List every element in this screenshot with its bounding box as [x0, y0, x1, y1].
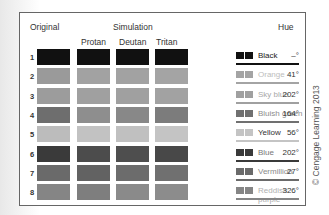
legend-swatch — [245, 129, 253, 136]
header-original: Original — [30, 22, 59, 32]
swatch-protan — [77, 165, 110, 181]
legend-swatch — [245, 71, 253, 78]
color-name: Blue — [258, 148, 274, 157]
legend-swatch — [245, 110, 253, 117]
swatch-original — [37, 126, 70, 142]
hue-value: 27° — [287, 167, 299, 176]
swatch-protan — [77, 126, 110, 142]
swatch-protan — [77, 146, 110, 162]
swatch-protan — [77, 49, 110, 65]
swatch-original — [37, 68, 70, 84]
swatch-tritan — [155, 68, 188, 84]
swatch-deutan — [116, 49, 149, 65]
hue-value: 202° — [282, 90, 299, 99]
hue-value: 56° — [287, 128, 299, 137]
legend-swatch — [245, 168, 253, 175]
header-protan: Protan — [81, 37, 106, 47]
legend-bar — [236, 198, 299, 200]
color-name: Black — [258, 51, 278, 60]
swatch-deutan — [116, 126, 149, 142]
swatch-deutan — [116, 184, 149, 200]
swatch-protan — [77, 68, 110, 84]
hue-value: 202° — [282, 148, 299, 157]
swatch-deutan — [116, 88, 149, 104]
legend-bar — [236, 121, 299, 123]
swatch-tritan — [155, 88, 188, 104]
color-name: Orange — [258, 70, 285, 79]
swatch-deutan — [116, 107, 149, 123]
swatch-original — [37, 165, 70, 181]
legend-swatch — [236, 52, 244, 59]
copyright-credit: © Cengage Learning 2013 — [311, 85, 321, 185]
swatch-original — [37, 107, 70, 123]
swatch-original — [37, 49, 70, 65]
legend-bar — [236, 82, 299, 84]
swatch-deutan — [116, 165, 149, 181]
hue-value: 164° — [282, 109, 299, 118]
color-blindness-table: Original Simulation Protan Deutan Tritan… — [19, 12, 306, 206]
header-tritan: Tritan — [156, 37, 177, 47]
legend-swatch — [236, 149, 244, 156]
legend-swatch — [236, 129, 244, 136]
header-deutan: Deutan — [119, 37, 146, 47]
legend-swatch — [236, 187, 244, 194]
header-hue: Hue — [278, 22, 294, 32]
legend-swatch — [236, 71, 244, 78]
swatch-tritan — [155, 49, 188, 65]
legend-swatch — [245, 91, 253, 98]
legend-swatch — [245, 149, 253, 156]
swatch-tritan — [155, 146, 188, 162]
swatch-tritan — [155, 165, 188, 181]
swatch-protan — [77, 88, 110, 104]
color-name: Yellow — [258, 128, 281, 137]
swatch-protan — [77, 184, 110, 200]
swatch-protan — [77, 107, 110, 123]
swatch-deutan — [116, 68, 149, 84]
swatch-tritan — [155, 107, 188, 123]
legend-swatch — [245, 52, 253, 59]
swatch-tritan — [155, 184, 188, 200]
legend-swatch — [236, 168, 244, 175]
legend-bar — [236, 179, 299, 181]
hue-value: 41° — [287, 70, 299, 79]
header-simulation: Simulation — [113, 22, 153, 32]
swatch-deutan — [116, 146, 149, 162]
swatch-original — [37, 146, 70, 162]
legend-bar — [236, 140, 299, 142]
legend-swatch — [236, 110, 244, 117]
swatch-original — [37, 88, 70, 104]
hue-value: 326° — [282, 186, 299, 195]
legend-swatch — [245, 187, 253, 194]
hue-value: –° — [291, 51, 299, 60]
legend-bar — [236, 102, 299, 104]
swatch-original — [37, 184, 70, 200]
legend-bar — [236, 63, 299, 65]
swatch-tritan — [155, 126, 188, 142]
legend-swatch — [236, 91, 244, 98]
legend-bar — [236, 160, 299, 162]
